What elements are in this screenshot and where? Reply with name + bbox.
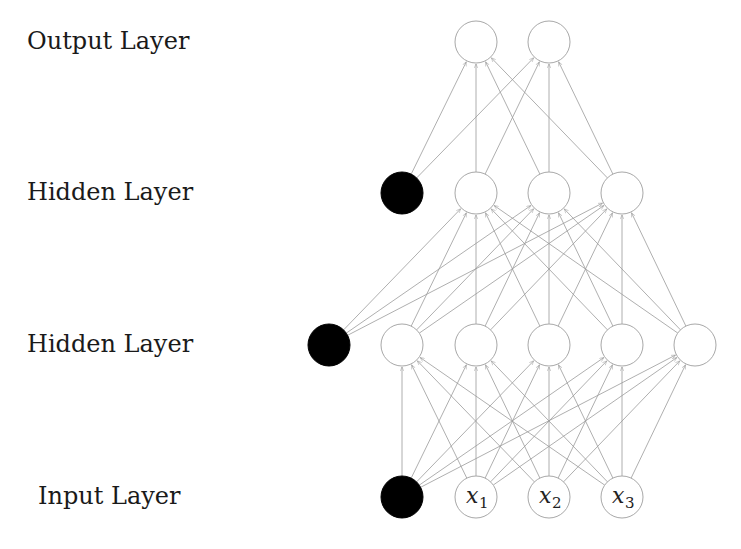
neuron-circle-icon (455, 324, 497, 366)
bias-node-h1-bias (308, 324, 350, 366)
bias-circle-icon (381, 476, 423, 518)
neuron-circle-icon (455, 172, 497, 214)
neuron-h1-3 (528, 324, 570, 366)
neuron-circle-icon (528, 21, 570, 63)
node-subscript: 2 (552, 494, 562, 512)
node-label: x (466, 483, 479, 508)
connection-in-bias-to-h1-3 (417, 361, 534, 482)
neuron-h2-3 (601, 172, 643, 214)
bias-circle-icon (381, 172, 423, 214)
neuron-h1-5 (674, 324, 716, 366)
node-subscript: 1 (479, 494, 489, 512)
neuron-circle-icon (455, 21, 497, 63)
neuron-h2-2 (528, 172, 570, 214)
neuron-h1-4 (601, 324, 643, 366)
neuron-h2-1 (455, 172, 497, 214)
neuron-h1-1 (381, 324, 423, 366)
node-subscript: 3 (625, 494, 635, 512)
connection-x3-to-h1-1 (420, 358, 605, 486)
bias-node-in-bias (381, 476, 423, 518)
connection-h1-5-to-h2-3 (632, 213, 686, 326)
connection-h1-1-to-h2-1 (411, 213, 466, 326)
bias-node-h2-bias (381, 172, 423, 214)
neuron-circle-icon (528, 324, 570, 366)
neuron-circle-icon (601, 172, 643, 214)
connection-h1-bias-to-h2-1 (344, 209, 461, 330)
connection-h1-5-to-h2-1 (494, 206, 678, 334)
neural-network-diagram: x1x2x3 (0, 0, 741, 549)
neuron-circle-icon (601, 324, 643, 366)
connection-x3-to-h1-5 (631, 365, 685, 478)
neuron-circle-icon (381, 324, 423, 366)
connection-h2-2-to-o-1 (486, 62, 540, 174)
neuron-circle-icon (674, 324, 716, 366)
node-label: x (612, 483, 625, 508)
connection-h2-1-to-o-2 (485, 62, 539, 174)
connection-in-bias-to-h1-5 (421, 355, 676, 487)
connection-h2-3-to-o-2 (559, 62, 613, 174)
connection-h2-bias-to-o-1 (411, 62, 466, 174)
neuron-o-2 (528, 21, 570, 63)
connection-in-bias-to-h1-4 (419, 358, 604, 486)
neuron-x2: x2 (528, 476, 570, 518)
bias-circle-icon (308, 324, 350, 366)
connections (344, 58, 686, 488)
neuron-o-1 (455, 21, 497, 63)
connection-h1-1-to-h2-2 (417, 209, 534, 330)
neuron-h1-2 (455, 324, 497, 366)
neuron-x3: x3 (601, 476, 643, 518)
connection-h2-bias-to-o-2 (417, 58, 534, 178)
neuron-x1: x1 (455, 476, 497, 518)
node-label: x (539, 483, 552, 508)
connection-h1-1-to-h2-3 (419, 206, 604, 334)
neuron-circle-icon (528, 172, 570, 214)
